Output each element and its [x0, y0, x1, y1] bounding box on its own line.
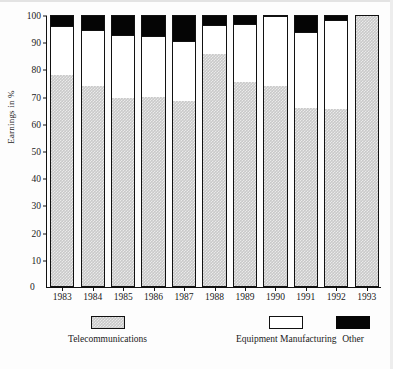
x-tick-label-1988: 1988 [205, 292, 224, 302]
bar-segment-other-1988 [203, 16, 225, 25]
bar-segment-telecommunications-1993 [356, 16, 378, 286]
scan-edge-top [0, 0, 393, 2]
bar-stack-1984[interactable] [81, 15, 105, 287]
x-tick-mark-1990 [275, 287, 276, 291]
legend-item-other[interactable]: Other [336, 316, 370, 344]
y-tick-mark-50 [43, 152, 47, 153]
bar-stack-1983[interactable] [50, 15, 74, 287]
bar-segment-other-1987 [173, 16, 195, 41]
bar-column-1985[interactable] [111, 16, 135, 287]
bar-segment-telecommunications-1987 [173, 101, 195, 286]
x-tick-mark-1987 [184, 287, 185, 291]
bar-segment-telecommunications-1988 [203, 54, 225, 286]
y-tick-mark-80 [43, 70, 47, 71]
bar-segment-telecommunications-1983 [51, 75, 73, 286]
bar-segment-equipment-manufacturing-1983 [51, 26, 73, 76]
x-tick-mark-1985 [123, 287, 124, 291]
bar-stack-1991[interactable] [294, 15, 318, 287]
bar-segment-other-1984 [82, 16, 104, 30]
bar-column-1986[interactable] [141, 16, 165, 287]
stacked-bar-chart: Earnings in % 102030405060708090100 0 19… [0, 0, 393, 369]
x-tick-mark-1986 [154, 287, 155, 291]
gray-checkered-swatch [91, 316, 125, 329]
bar-segment-equipment-manufacturing-1987 [173, 41, 195, 101]
y-tick-mark-30 [43, 206, 47, 207]
x-axis-labels: 1983198419851986198719881989199019911992… [46, 292, 381, 308]
y-tick-label-zero: 0 [30, 282, 35, 292]
x-tick-mark-1988 [215, 287, 216, 291]
bar-segment-telecommunications-1990 [264, 86, 286, 286]
y-tick-mark-20 [43, 233, 47, 234]
bar-segment-telecommunications-1984 [82, 86, 104, 286]
bar-segment-other-1989 [234, 16, 256, 24]
y-tick-mark-90 [43, 43, 47, 44]
y-tick-mark-100 [43, 16, 47, 17]
bar-stack-1986[interactable] [141, 15, 165, 287]
plot-area: 102030405060708090100 [46, 16, 381, 288]
bar-column-1983[interactable] [50, 16, 74, 287]
bar-group [47, 16, 381, 287]
bar-stack-1990[interactable] [263, 15, 287, 287]
bar-column-1989[interactable] [233, 16, 257, 287]
bar-segment-other-1986 [142, 16, 164, 36]
white-swatch [269, 316, 303, 329]
legend-item-telecommunications[interactable]: Telecommunications [68, 316, 147, 344]
x-tick-mark-1991 [306, 287, 307, 291]
x-tick-label-1990: 1990 [266, 292, 285, 302]
x-tick-mark-1993 [367, 287, 368, 291]
x-tick-mark-1989 [245, 287, 246, 291]
x-tick-label-1989: 1989 [235, 292, 254, 302]
bar-segment-telecommunications-1985 [112, 98, 134, 286]
bar-segment-equipment-manufacturing-1990 [264, 16, 286, 86]
bar-segment-telecommunications-1992 [325, 109, 347, 286]
bar-segment-equipment-manufacturing-1992 [325, 20, 347, 109]
legend-label-2: Other [336, 334, 370, 344]
bar-column-1991[interactable] [294, 16, 318, 287]
x-tick-mark-1983 [62, 287, 63, 291]
x-tick-mark-1992 [336, 287, 337, 291]
bar-segment-equipment-manufacturing-1988 [203, 25, 225, 54]
x-tick-mark-1984 [93, 287, 94, 291]
x-tick-label-1991: 1991 [296, 292, 315, 302]
bar-stack-1985[interactable] [111, 15, 135, 287]
y-tick-mark-70 [43, 97, 47, 98]
bar-segment-telecommunications-1989 [234, 82, 256, 286]
bar-column-1984[interactable] [81, 16, 105, 287]
bar-segment-other-1985 [112, 16, 134, 35]
bar-column-1993[interactable] [355, 16, 379, 287]
bar-stack-1987[interactable] [172, 15, 196, 287]
legend-label-0: Telecommunications [68, 334, 147, 344]
bar-column-1990[interactable] [263, 16, 287, 287]
y-tick-mark-10 [43, 260, 47, 261]
black-swatch [336, 316, 370, 329]
y-tick-mark-40 [43, 179, 47, 180]
bar-segment-equipment-manufacturing-1985 [112, 35, 134, 98]
bar-column-1988[interactable] [202, 16, 226, 287]
bar-segment-other-1991 [295, 16, 317, 32]
x-tick-label-1983: 1983 [53, 292, 72, 302]
bar-segment-equipment-manufacturing-1984 [82, 30, 104, 86]
bar-stack-1989[interactable] [233, 15, 257, 287]
y-axis-title: Earnings in % [6, 72, 16, 162]
bar-stack-1988[interactable] [202, 15, 226, 287]
bar-segment-other-1983 [51, 16, 73, 26]
bar-column-1992[interactable] [324, 16, 348, 287]
bar-segment-telecommunications-1986 [142, 97, 164, 286]
x-tick-label-1992: 1992 [327, 292, 346, 302]
bar-stack-1992[interactable] [324, 15, 348, 287]
x-tick-label-1984: 1984 [83, 292, 102, 302]
bar-segment-equipment-manufacturing-1991 [295, 32, 317, 108]
bar-segment-equipment-manufacturing-1989 [234, 24, 256, 82]
bar-column-1987[interactable] [172, 16, 196, 287]
bar-segment-telecommunications-1991 [295, 108, 317, 286]
bar-stack-1993[interactable] [355, 15, 379, 287]
legend-item-equipment-manufacturing[interactable]: Equipment Manufacturing [236, 316, 337, 344]
x-tick-label-1993: 1993 [357, 292, 376, 302]
x-tick-label-1986: 1986 [144, 292, 163, 302]
chart-legend: TelecommunicationsEquipment Manufacturin… [46, 316, 386, 356]
x-tick-label-1985: 1985 [114, 292, 133, 302]
bar-segment-equipment-manufacturing-1986 [142, 36, 164, 97]
x-tick-label-1987: 1987 [175, 292, 194, 302]
legend-label-1: Equipment Manufacturing [236, 334, 337, 344]
y-tick-mark-60 [43, 124, 47, 125]
